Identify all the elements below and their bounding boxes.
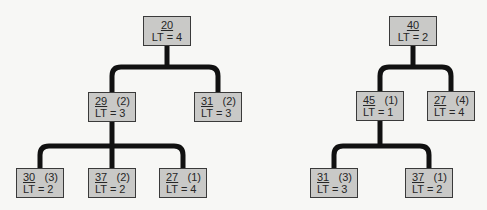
- node-lt-label: LT = 4: [166, 183, 206, 195]
- node-value: 37: [95, 171, 107, 183]
- node-count: (1): [385, 94, 398, 106]
- tree-node-right-b: 27 (4) LT = 4: [427, 91, 475, 121]
- tree-node-left-a2: 37 (2) LT = 2: [88, 168, 136, 198]
- connector-right-a-branch: [334, 146, 429, 169]
- tree-node-left-a: 29 (2) LT = 3: [88, 92, 136, 122]
- node-count: (2): [117, 171, 130, 183]
- node-count: (1): [188, 171, 201, 183]
- node-value: 40: [390, 19, 436, 31]
- node-count: (1): [434, 171, 447, 183]
- node-lt-label: LT = 2: [95, 183, 135, 195]
- tree-node-right-a1: 31 (3) LT = 3: [310, 168, 358, 198]
- node-value: 27: [434, 94, 446, 106]
- tree-node-left-root: 20 LT = 4: [143, 16, 191, 46]
- node-lt-label: LT = 3: [201, 107, 241, 119]
- tree-node-right-a: 45 (1) LT = 1: [356, 91, 404, 121]
- node-value: 37: [412, 171, 424, 183]
- node-value: 29: [95, 95, 107, 107]
- node-lt-label: LT = 3: [317, 183, 357, 195]
- node-value: 31: [201, 95, 213, 107]
- node-value: 30: [23, 171, 35, 183]
- connector-left-root-branch: [112, 67, 218, 93]
- node-lt-label: LT = 2: [23, 183, 63, 195]
- node-count: (2): [223, 95, 236, 107]
- node-lt-label: LT = 3: [95, 107, 135, 119]
- node-count: (2): [117, 95, 130, 107]
- diagram-canvas: 20 LT = 4 29 (2) LT = 3 31 (2) LT = 3 30…: [0, 0, 487, 210]
- tree-node-left-a1: 30 (3) LT = 2: [16, 168, 64, 198]
- tree-node-right-root: 40 LT = 2: [389, 16, 437, 46]
- tree-node-right-a2: 37 (1) LT = 2: [405, 168, 453, 198]
- node-lt-label: LT = 2: [412, 183, 452, 195]
- node-lt-label: LT = 2: [390, 31, 436, 43]
- tree-node-left-a3: 27 (1) LT = 4: [159, 168, 207, 198]
- node-value: 20: [144, 19, 190, 31]
- node-lt-label: LT = 4: [434, 106, 474, 118]
- node-value: 31: [317, 171, 329, 183]
- node-value: 45: [363, 94, 375, 106]
- node-count: (3): [339, 171, 352, 183]
- node-value: 27: [166, 171, 178, 183]
- node-count: (3): [45, 171, 58, 183]
- node-lt-label: LT = 1: [363, 106, 403, 118]
- tree-node-left-b: 31 (2) LT = 3: [194, 92, 242, 122]
- node-count: (4): [456, 94, 469, 106]
- node-lt-label: LT = 4: [144, 31, 190, 43]
- connector-right-root-branch: [380, 67, 451, 92]
